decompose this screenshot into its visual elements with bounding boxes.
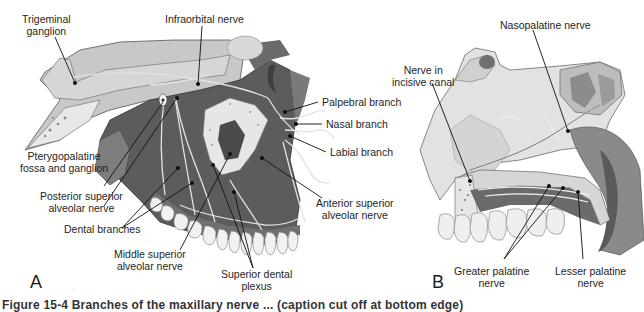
- label-pterygopalatine-fossa: Pterygopalatine fossa and ganglion: [20, 150, 108, 174]
- label-line: Nerve in: [392, 64, 454, 76]
- label-line: alveolar nerve: [40, 202, 123, 214]
- panel-letter-a: A: [30, 272, 42, 293]
- label-line: Pterygopalatine: [20, 150, 108, 162]
- label-line: Middle superior: [114, 248, 186, 260]
- label-line: ganglion: [22, 25, 71, 37]
- label-middle-superior-alveolar-nerve: Middle superior alveolar nerve: [114, 248, 186, 272]
- label-dental-branches: Dental branches: [64, 223, 140, 235]
- label-nasopalatine-nerve: Nasopalatine nerve: [500, 19, 590, 31]
- label-anterior-superior-alveolar-nerve: Anterior superior alveolar nerve: [316, 197, 394, 221]
- label-posterior-superior-alveolar-nerve: Posterior superior alveolar nerve: [40, 190, 123, 214]
- label-line: Anterior superior: [316, 197, 394, 209]
- label-line: Lesser palatine: [555, 265, 626, 277]
- label-line: Superior dental: [221, 268, 292, 280]
- label-line: fossa and ganglion: [20, 162, 108, 174]
- label-line: Posterior superior: [40, 190, 123, 202]
- label-infraorbital-nerve: Infraorbital nerve: [165, 13, 244, 25]
- label-line: alveolar nerve: [114, 260, 186, 272]
- label-labial-branch: Labial branch: [330, 146, 393, 158]
- label-line: nerve: [555, 277, 626, 289]
- label-line: alveolar nerve: [316, 209, 394, 221]
- label-nasal-branch: Nasal branch: [326, 118, 388, 130]
- label-nerve-in-incisive-canal: Nerve in incisive canal: [392, 64, 454, 88]
- label-palpebral-branch: Palpebral branch: [322, 96, 401, 108]
- figure-caption: Figure 15-4 Branches of the maxillary ne…: [2, 298, 463, 312]
- label-superior-dental-plexus: Superior dental plexus: [221, 268, 292, 292]
- panel-letter-b: B: [432, 272, 444, 293]
- label-line: plexus: [221, 280, 292, 292]
- label-greater-palatine-nerve: Greater palatine nerve: [454, 265, 529, 289]
- label-line: incisive canal: [392, 76, 454, 88]
- label-lesser-palatine-nerve: Lesser palatine nerve: [555, 265, 626, 289]
- label-line: nerve: [454, 277, 529, 289]
- label-trigeminal-ganglion: Trigeminal ganglion: [22, 13, 71, 37]
- label-line: Greater palatine: [454, 265, 529, 277]
- label-line: Trigeminal: [22, 13, 71, 25]
